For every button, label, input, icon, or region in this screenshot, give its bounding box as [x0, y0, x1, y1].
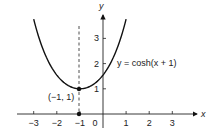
- axes: [17, 15, 197, 128]
- x-intercept-point: [77, 112, 81, 116]
- cosh-curve: [34, 19, 126, 89]
- y-tick-label: 2: [94, 59, 99, 69]
- vertex-label: (−1, 1): [48, 92, 74, 102]
- y-axis-label: y: [98, 1, 104, 11]
- x-tick-label: 0: [92, 118, 97, 128]
- x-tick-label: 2: [147, 118, 152, 128]
- y-tick-label: 3: [94, 33, 99, 43]
- x-tick-label: 1: [124, 118, 129, 128]
- cosh-graph: −3−2−10123 123 (−1, 1) y = cosh(x + 1) x…: [0, 0, 221, 133]
- x-tick-label: −1: [75, 118, 85, 128]
- vertex-point: [77, 87, 81, 91]
- x-axis-label: x: [200, 109, 206, 119]
- x-tick-label: −2: [52, 118, 62, 128]
- y-tick-label: 1: [94, 84, 99, 94]
- curve-label: y = cosh(x + 1): [117, 58, 177, 68]
- y-ticks: 123: [94, 33, 106, 93]
- x-tick-label: −3: [29, 118, 39, 128]
- x-tick-label: 3: [170, 118, 175, 128]
